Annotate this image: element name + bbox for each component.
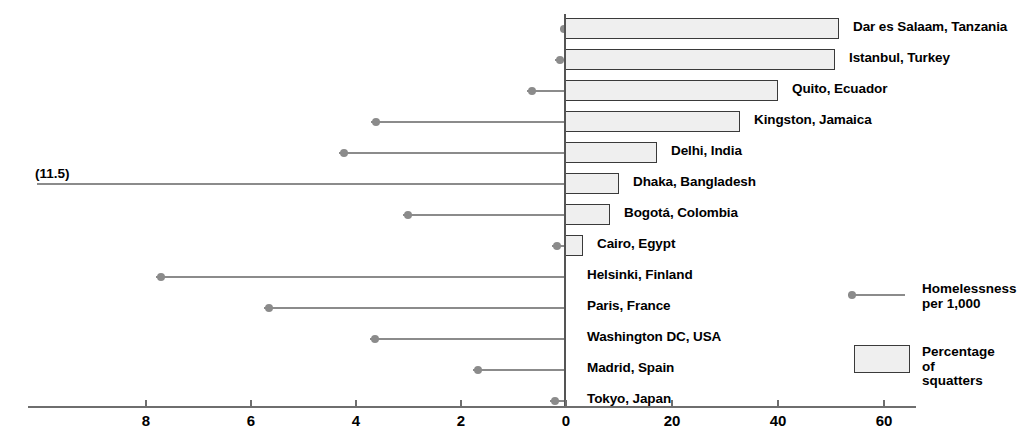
homelessness-stem bbox=[156, 276, 565, 278]
homelessness-dot bbox=[474, 366, 482, 374]
line-swatch-icon bbox=[848, 294, 905, 296]
squatters-bar bbox=[565, 18, 839, 39]
squatters-bar bbox=[565, 235, 583, 256]
axis-tick-label: 2 bbox=[457, 412, 465, 429]
axis-tick bbox=[460, 400, 462, 408]
squatters-bar bbox=[565, 204, 610, 225]
squatters-bar bbox=[565, 173, 619, 194]
chart-row: Paris, France bbox=[0, 293, 1027, 324]
city-label: Bogotá, Colombia bbox=[624, 205, 738, 220]
axis-tick bbox=[250, 400, 252, 408]
homelessness-stem bbox=[370, 338, 565, 340]
offscale-value-annotation: (11.5) bbox=[35, 166, 70, 181]
homelessness-dot bbox=[372, 118, 380, 126]
homelessness-dot bbox=[265, 304, 273, 312]
legend-label-squatters: Percentage of squatters bbox=[922, 345, 995, 389]
axis-tick-label: 60 bbox=[876, 412, 893, 429]
chart-row: Istanbul, Turkey bbox=[0, 45, 1027, 76]
axis-tick bbox=[145, 400, 147, 408]
chart-row: Tokyo, Japan bbox=[0, 386, 1027, 417]
city-label: Quito, Ecuador bbox=[792, 81, 887, 96]
squatters-bar bbox=[565, 49, 835, 70]
city-label: Dhaka, Bangladesh bbox=[633, 174, 756, 189]
chart-canvas: Dar es Salaam, TanzaniaIstanbul, TurkeyQ… bbox=[0, 0, 1027, 437]
chart-row: Bogotá, Colombia bbox=[0, 200, 1027, 231]
homelessness-stem bbox=[473, 369, 565, 371]
city-label: Cairo, Egypt bbox=[597, 236, 675, 251]
homelessness-dot bbox=[404, 211, 412, 219]
squatters-bar bbox=[565, 111, 740, 132]
squatters-bar bbox=[565, 142, 657, 163]
axis-tick bbox=[355, 400, 357, 408]
zero-axis-line bbox=[564, 14, 566, 407]
homelessness-stem bbox=[403, 214, 565, 216]
horizontal-axis-line bbox=[28, 406, 916, 408]
axis-tick bbox=[671, 400, 673, 408]
city-label: Paris, France bbox=[587, 298, 671, 313]
homelessness-dot bbox=[157, 273, 165, 281]
axis-tick bbox=[565, 400, 567, 408]
city-label: Kingston, Jamaica bbox=[754, 112, 872, 127]
chart-row: Helsinki, Finland bbox=[0, 262, 1027, 293]
axis-tick-label: 4 bbox=[352, 412, 360, 429]
city-label: Dar es Salaam, Tanzania bbox=[853, 19, 1007, 34]
box-swatch-icon bbox=[854, 345, 910, 373]
city-label: Istanbul, Turkey bbox=[849, 50, 950, 65]
homelessness-stem bbox=[339, 152, 565, 154]
homelessness-dot bbox=[528, 87, 536, 95]
city-label: Helsinki, Finland bbox=[587, 267, 693, 282]
city-label: Tokyo, Japan bbox=[587, 391, 671, 406]
axis-tick bbox=[883, 400, 885, 408]
chart-row: Kingston, Jamaica bbox=[0, 107, 1027, 138]
axis-tick bbox=[777, 400, 779, 408]
city-label: Delhi, India bbox=[671, 143, 742, 158]
homelessness-dot bbox=[551, 397, 559, 405]
axis-tick-label: 0 bbox=[562, 412, 570, 429]
dot-swatch-icon bbox=[848, 291, 856, 299]
city-label: Madrid, Spain bbox=[587, 360, 674, 375]
homelessness-dot bbox=[553, 242, 561, 250]
homelessness-dot bbox=[340, 149, 348, 157]
chart-row: Cairo, Egypt bbox=[0, 231, 1027, 262]
axis-tick-label: 6 bbox=[247, 412, 255, 429]
homelessness-dot bbox=[556, 56, 564, 64]
chart-row: Dar es Salaam, Tanzania bbox=[0, 14, 1027, 45]
chart-row: Quito, Ecuador bbox=[0, 76, 1027, 107]
homelessness-stem bbox=[264, 307, 565, 309]
axis-tick-label: 8 bbox=[142, 412, 150, 429]
chart-row: Delhi, India bbox=[0, 138, 1027, 169]
squatters-bar bbox=[565, 80, 778, 101]
axis-tick-label: 20 bbox=[664, 412, 681, 429]
axis-tick-label: 40 bbox=[770, 412, 787, 429]
homelessness-dot bbox=[371, 335, 379, 343]
homelessness-stem bbox=[37, 183, 565, 185]
legend-label-homelessness: Homelessness per 1,000 bbox=[922, 282, 1017, 311]
city-label: Washington DC, USA bbox=[587, 329, 721, 344]
chart-row: Dhaka, Bangladesh bbox=[0, 169, 1027, 200]
homelessness-stem bbox=[371, 121, 565, 123]
